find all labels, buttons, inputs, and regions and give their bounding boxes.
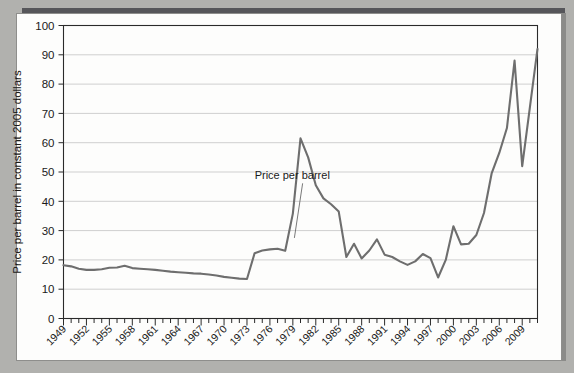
y-tick-label: 70 xyxy=(42,108,55,120)
y-axis-tick-labels: 0102030405060708090100 xyxy=(35,20,54,325)
y-tick-label: 100 xyxy=(35,20,54,32)
annotation-label: Price per barrel xyxy=(255,169,330,181)
x-tick-label: 1970 xyxy=(204,322,229,347)
x-tick-label: 1991 xyxy=(365,322,390,347)
annotation-price-per-barrel: Price per barrel xyxy=(255,169,330,238)
line-chart: 0102030405060708090100 19491952195519581… xyxy=(0,0,574,373)
price-per-barrel-line xyxy=(64,49,538,279)
y-tick-label: 20 xyxy=(42,254,55,266)
y-tick-label: 60 xyxy=(42,137,55,149)
x-axis-ticks xyxy=(64,319,538,326)
y-tick-label: 30 xyxy=(42,225,55,237)
x-tick-label: 1952 xyxy=(66,322,91,347)
x-tick-label: 1958 xyxy=(112,322,137,347)
x-tick-label: 1967 xyxy=(181,322,206,347)
x-tick-label: 1964 xyxy=(158,322,183,347)
x-tick-label: 1997 xyxy=(410,322,435,347)
x-tick-label: 2009 xyxy=(502,322,527,347)
x-axis-tick-labels: 1949195219551958196119641967197019731976… xyxy=(43,322,527,347)
y-tick-label: 90 xyxy=(42,49,55,61)
x-tick-label: 1955 xyxy=(89,322,114,347)
y-axis-ticks xyxy=(59,26,64,319)
x-tick-label: 2000 xyxy=(433,322,458,347)
x-tick-label: 1949 xyxy=(43,322,68,347)
chart-figure: 0102030405060708090100 19491952195519581… xyxy=(0,0,574,373)
x-tick-label: 1994 xyxy=(387,322,412,347)
y-tick-label: 80 xyxy=(42,78,55,90)
x-tick-label: 1979 xyxy=(273,322,298,347)
y-axis-title: Price per barrel in constant 2005 dollar… xyxy=(11,70,23,274)
y-tick-label: 10 xyxy=(42,283,55,295)
x-tick-label: 1985 xyxy=(319,322,344,347)
y-tick-label: 0 xyxy=(48,313,54,325)
x-tick-label: 2003 xyxy=(456,322,481,347)
x-tick-label: 1982 xyxy=(296,322,321,347)
x-tick-label: 1976 xyxy=(250,322,275,347)
y-tick-label: 50 xyxy=(42,166,55,178)
y-tick-label: 40 xyxy=(42,196,55,208)
x-tick-label: 2006 xyxy=(479,322,504,347)
x-tick-label: 1973 xyxy=(227,322,252,347)
x-tick-label: 1961 xyxy=(135,322,160,347)
x-tick-label: 1988 xyxy=(342,322,367,347)
